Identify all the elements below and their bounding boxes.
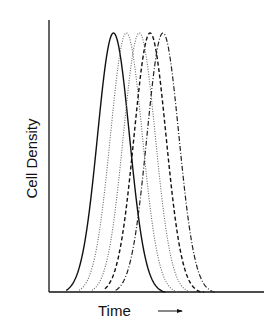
curve-1-line xyxy=(66,33,165,292)
right-arrow-icon xyxy=(158,309,183,313)
cell-density-chart xyxy=(0,0,278,332)
curve-2-line xyxy=(79,33,178,292)
x-axis-label: Time xyxy=(98,302,131,319)
curves-group xyxy=(66,33,214,292)
curve-5-line xyxy=(116,33,215,292)
y-axis-label: Cell Density xyxy=(23,104,40,214)
